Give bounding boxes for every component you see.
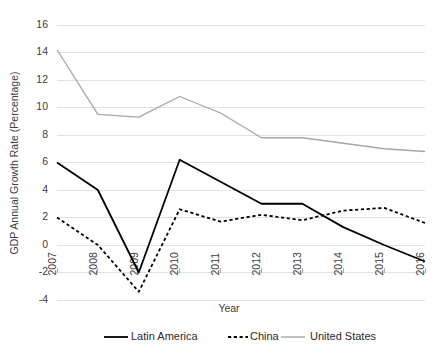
legend-label-china: China — [250, 330, 280, 342]
legend-label-latin-america: Latin America — [131, 330, 199, 342]
y-axis-tick-label: 16 — [36, 18, 48, 30]
y-axis-title: GDP Annual Growth Rate (Percentage) — [8, 71, 20, 254]
x-axis-tick-label: 2015 — [373, 252, 385, 276]
x-axis-tick-label: 2010 — [168, 252, 180, 276]
y-axis-tick-label: 14 — [36, 45, 48, 57]
x-axis-tick-label: 2014 — [332, 252, 344, 276]
y-axis-tick-label: 10 — [36, 100, 48, 112]
x-axis-tick-label: 2007 — [46, 252, 58, 276]
y-axis-tick-label: 4 — [42, 183, 48, 195]
series-line-latin-america — [57, 160, 425, 273]
legend-label-united-states: United States — [310, 330, 377, 342]
x-axis-tick-label: 2016 — [414, 252, 426, 276]
x-axis-tick-label: 2012 — [250, 252, 262, 276]
chart-canvas: 1614121086420-2-4 2007200820092010201120… — [0, 0, 432, 355]
gdp-growth-line-chart: 1614121086420-2-4 2007200820092010201120… — [0, 0, 432, 355]
y-axis-tick-label: 2 — [42, 210, 48, 222]
series-line-united-states — [57, 50, 425, 152]
y-axis-tick-label: 0 — [42, 238, 48, 250]
y-axis-tick-label: 6 — [42, 155, 48, 167]
data-series — [57, 50, 425, 292]
y-axis-tick-label: -4 — [39, 293, 48, 305]
y-axis-tick-label: 12 — [36, 73, 48, 85]
x-axis-tick-labels: 2007200820092010201120122013201420152016 — [46, 252, 426, 276]
x-axis-tick-label: 2013 — [291, 252, 303, 276]
gridlines — [57, 25, 425, 300]
y-axis-tick-label: 8 — [42, 128, 48, 140]
x-axis-tick-label: 2008 — [87, 252, 99, 276]
x-axis-tick-marks — [57, 268, 425, 273]
x-axis-tick-label: 2011 — [209, 253, 221, 276]
x-axis-title: Year — [218, 302, 240, 314]
chart-legend: Latin AmericaChinaUnited States — [104, 330, 377, 342]
